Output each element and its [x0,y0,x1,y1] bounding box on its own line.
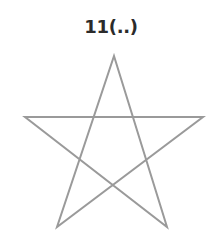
figure-label: 11(..) [2,17,218,37]
pentagram-path [25,56,203,227]
figure-canvas: 11(..) [0,0,218,248]
pentagram-graphic [0,0,218,248]
